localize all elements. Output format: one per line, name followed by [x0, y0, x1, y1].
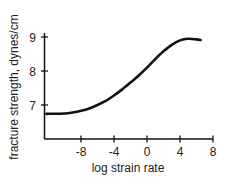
- y-tick-label: 8: [29, 65, 36, 79]
- y-tick-label: 9: [29, 31, 36, 45]
- x-axis-label: log strain rate: [92, 161, 165, 175]
- y-axis-label: fracture strength, dynes/cm: [7, 14, 21, 159]
- line-chart: 789 -8-4048 log strain rate fracture str…: [0, 0, 226, 179]
- y-axis: 789: [29, 31, 48, 140]
- x-axis: -8-4048: [45, 136, 217, 160]
- data-line: [46, 39, 200, 114]
- x-tick-label: -4: [109, 145, 120, 159]
- x-tick-label: 0: [144, 145, 151, 159]
- x-tick-label: -8: [76, 145, 87, 159]
- y-tick-label: 7: [29, 99, 36, 113]
- x-tick-label: 8: [210, 145, 217, 159]
- x-tick-label: 4: [177, 145, 184, 159]
